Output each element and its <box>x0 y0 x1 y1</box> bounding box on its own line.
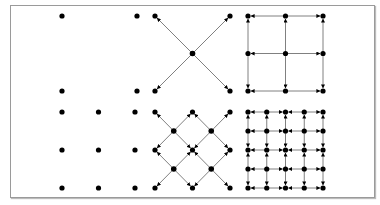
edge-fine-diagonal <box>211 131 228 148</box>
node-fine-orthogonal <box>283 166 288 171</box>
node-coarse-diagonal <box>227 13 232 18</box>
edge-fine-diagonal <box>195 169 212 186</box>
node-fine-diagonal <box>190 109 195 114</box>
node-fine-orthogonal <box>245 185 250 190</box>
grid-diagram <box>0 0 380 205</box>
node-fine-nodes <box>59 185 64 190</box>
edge-fine-diagonal <box>211 152 228 169</box>
node-fine-diagonal <box>227 109 232 114</box>
node-fine-diagonal <box>190 185 195 190</box>
edge-coarse-diagonal-3 <box>193 54 228 89</box>
node-fine-orthogonal <box>264 147 269 152</box>
node-coarse-nodes <box>134 88 139 93</box>
node-fine-orthogonal <box>283 185 288 190</box>
edge-fine-diagonal <box>157 152 174 169</box>
edge-coarse-diagonal-0 <box>157 18 192 53</box>
node-coarse-orthogonal <box>245 88 250 93</box>
edge-fine-diagonal <box>195 152 212 169</box>
node-coarse-orthogonal <box>245 13 250 18</box>
edge-fine-diagonal <box>174 152 191 169</box>
node-fine-orthogonal <box>264 185 269 190</box>
node-fine-diagonal <box>208 128 214 134</box>
node-fine-orthogonal <box>264 166 269 171</box>
node-fine-diagonal <box>227 185 232 190</box>
node-fine-orthogonal <box>283 128 288 133</box>
edge-fine-diagonal <box>174 131 191 148</box>
node-fine-nodes <box>96 147 101 152</box>
node-fine-orthogonal <box>245 109 250 114</box>
node-coarse-diagonal <box>152 13 157 18</box>
node-fine-nodes <box>132 147 137 152</box>
node-coarse-orthogonal <box>283 13 288 18</box>
node-fine-orthogonal <box>245 147 250 152</box>
node-coarse-diagonal-center <box>190 51 196 57</box>
node-fine-diagonal <box>152 147 157 152</box>
node-fine-orthogonal <box>320 128 325 133</box>
node-fine-orthogonal <box>302 166 307 171</box>
node-coarse-nodes <box>59 13 64 18</box>
node-fine-nodes <box>132 185 137 190</box>
node-fine-orthogonal <box>302 147 307 152</box>
node-fine-orthogonal <box>283 147 288 152</box>
node-fine-orthogonal <box>264 128 269 133</box>
node-coarse-orthogonal <box>320 88 325 93</box>
edge-fine-diagonal <box>195 114 212 131</box>
node-fine-orthogonal <box>302 109 307 114</box>
node-fine-diagonal <box>152 185 157 190</box>
edge-fine-diagonal <box>157 131 174 148</box>
edge-fine-diagonal <box>157 169 174 186</box>
node-fine-nodes <box>96 109 101 114</box>
edge-fine-diagonal <box>211 114 228 131</box>
edge-fine-diagonal <box>211 169 228 186</box>
node-fine-diagonal <box>190 147 195 152</box>
node-fine-diagonal <box>171 166 177 172</box>
node-coarse-diagonal <box>227 88 232 93</box>
node-coarse-nodes <box>134 13 139 18</box>
node-fine-orthogonal <box>245 166 250 171</box>
node-fine-orthogonal <box>320 109 325 114</box>
node-fine-diagonal <box>227 147 232 152</box>
node-coarse-diagonal <box>152 88 157 93</box>
node-fine-nodes <box>96 185 101 190</box>
node-coarse-nodes <box>59 88 64 93</box>
node-fine-orthogonal <box>320 185 325 190</box>
node-fine-nodes <box>132 109 137 114</box>
edge-coarse-diagonal-2 <box>157 54 192 89</box>
node-fine-nodes <box>59 109 64 114</box>
node-fine-orthogonal <box>320 147 325 152</box>
edge-fine-diagonal <box>157 114 174 131</box>
edge-fine-diagonal <box>195 131 212 148</box>
node-coarse-orthogonal <box>245 51 250 56</box>
node-coarse-orthogonal <box>283 88 288 93</box>
node-fine-diagonal <box>208 166 214 172</box>
edge-fine-diagonal <box>174 114 191 131</box>
edge-coarse-diagonal-1 <box>193 18 228 53</box>
node-fine-diagonal <box>152 109 157 114</box>
node-fine-orthogonal <box>302 185 307 190</box>
node-coarse-orthogonal <box>283 51 288 56</box>
node-fine-orthogonal <box>245 128 250 133</box>
node-fine-diagonal <box>171 128 177 134</box>
node-fine-orthogonal <box>283 109 288 114</box>
node-fine-orthogonal <box>302 128 307 133</box>
node-fine-nodes <box>59 147 64 152</box>
node-fine-orthogonal <box>264 109 269 114</box>
edge-fine-diagonal <box>174 169 191 186</box>
node-coarse-orthogonal <box>320 13 325 18</box>
node-coarse-orthogonal <box>320 51 325 56</box>
node-fine-orthogonal <box>320 166 325 171</box>
